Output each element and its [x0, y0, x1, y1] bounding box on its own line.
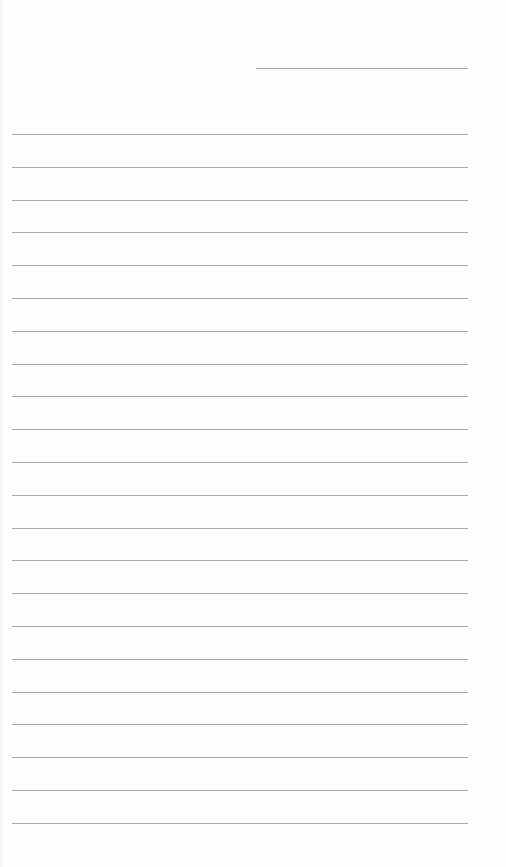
- ruled-line: [12, 790, 468, 791]
- ruled-lines: [12, 0, 468, 867]
- ruled-line: [12, 298, 468, 299]
- page-edge-shadow: [0, 0, 4, 867]
- ruled-line: [12, 134, 468, 135]
- ruled-line: [12, 429, 468, 430]
- ruled-line: [12, 167, 468, 168]
- ruled-line: [12, 200, 468, 201]
- ruled-line: [12, 462, 468, 463]
- ruled-line: [12, 265, 468, 266]
- ruled-line: [12, 560, 468, 561]
- ruled-line: [12, 364, 468, 365]
- ruled-line: [12, 626, 468, 627]
- ruled-line: [12, 396, 468, 397]
- ruled-line: [12, 593, 468, 594]
- ruled-line: [12, 495, 468, 496]
- ruled-line: [12, 823, 468, 824]
- ruled-line: [12, 528, 468, 529]
- ruled-line: [12, 232, 468, 233]
- ruled-line: [12, 331, 468, 332]
- ruled-line: [12, 692, 468, 693]
- ruled-line: [12, 757, 468, 758]
- ruled-line: [12, 659, 468, 660]
- notebook-page: [0, 0, 506, 867]
- ruled-line: [12, 724, 468, 725]
